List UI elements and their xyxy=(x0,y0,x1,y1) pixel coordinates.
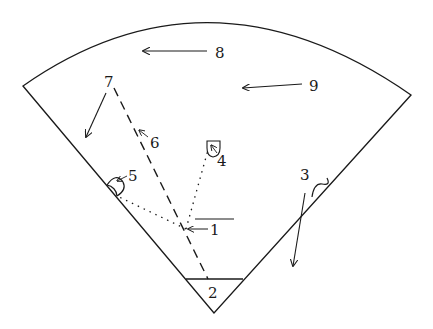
sector-diagram: 1 2 3 4 5 6 7 8 9 xyxy=(0,0,433,329)
label-8: 8 xyxy=(215,44,225,62)
label-7: 7 xyxy=(104,73,114,91)
arrow-3 xyxy=(293,193,305,266)
dotted-line-to-4 xyxy=(186,150,208,229)
label-1: 1 xyxy=(210,221,220,239)
arrow-6 xyxy=(139,130,148,137)
label-5: 5 xyxy=(128,167,138,185)
label-6: 6 xyxy=(150,134,160,152)
label-4: 4 xyxy=(217,152,227,170)
label-9: 9 xyxy=(309,77,319,95)
left-edge-semicircle-arc xyxy=(107,178,124,196)
right-edge-semicircle xyxy=(312,178,328,197)
label-3: 3 xyxy=(300,166,310,184)
arrow-7 xyxy=(86,93,106,137)
label-2: 2 xyxy=(208,284,218,302)
arrow-9 xyxy=(243,84,302,88)
